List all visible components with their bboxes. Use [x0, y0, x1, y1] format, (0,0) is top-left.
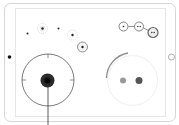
press-ring-icon: [78, 42, 88, 52]
rotate-touch-dark-icon: [136, 77, 143, 84]
two-finger-touch-icon: [135, 22, 144, 31]
camera-icon: [8, 55, 12, 59]
two-finger-press-icon: [148, 28, 158, 38]
tap-dot-icon: [58, 28, 60, 30]
tablet-illustration: [0, 0, 179, 125]
rotate-touch-light-icon: [120, 78, 126, 84]
tap-dot-icon: [27, 33, 29, 35]
